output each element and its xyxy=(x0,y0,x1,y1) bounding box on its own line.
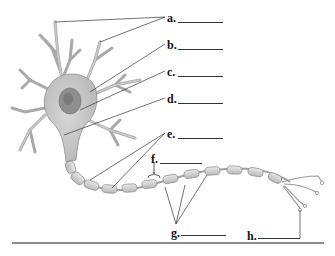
label-c: c. xyxy=(167,66,175,78)
answer-blank-c[interactable] xyxy=(178,76,223,77)
cell-body xyxy=(44,74,97,162)
answer-blank-d[interactable] xyxy=(178,103,223,104)
myelin-sheath xyxy=(64,160,283,194)
answer-blank-f[interactable] xyxy=(160,163,202,164)
label-a: a. xyxy=(167,12,176,24)
answer-blank-g[interactable] xyxy=(181,235,226,236)
answer-blank-h[interactable] xyxy=(258,238,300,239)
label-h: h. xyxy=(247,230,257,242)
bottom-rule xyxy=(12,242,324,244)
answer-blank-a[interactable] xyxy=(178,22,223,23)
bracket-f xyxy=(148,172,160,178)
leader-lines xyxy=(55,17,300,238)
label-b: b. xyxy=(167,39,177,51)
answer-blank-b[interactable] xyxy=(178,49,223,50)
answer-blank-e[interactable] xyxy=(178,138,223,139)
label-g: g. xyxy=(171,227,180,239)
label-e: e. xyxy=(167,128,175,140)
label-f: f. xyxy=(151,153,158,165)
label-d: d. xyxy=(167,93,177,105)
